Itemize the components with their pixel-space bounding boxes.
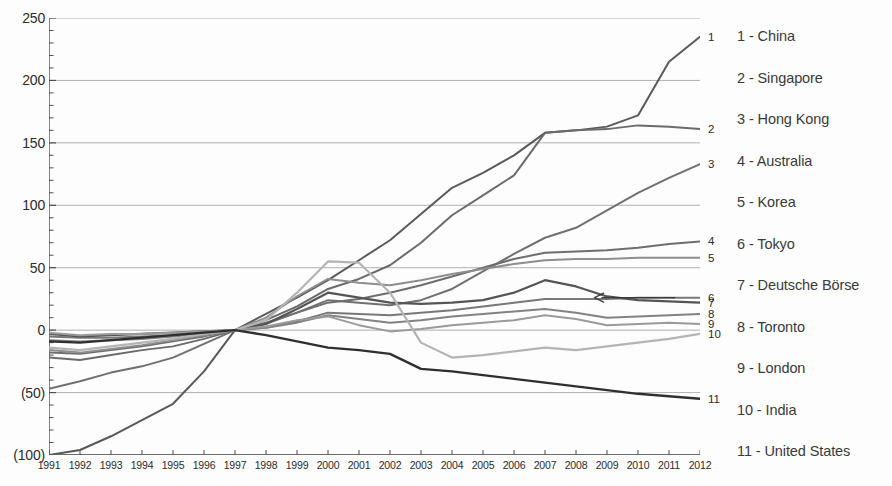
series-end-label-2: 2 <box>708 123 714 135</box>
x-tick-label: 1999 <box>286 459 309 471</box>
x-tick-label: 1991 <box>38 459 61 471</box>
legend-item-9: 9 - London <box>737 360 805 376</box>
x-tick-label: 2010 <box>627 459 650 471</box>
x-tick-label: 2004 <box>441 459 464 471</box>
y-tick-label: 0 <box>1 322 45 338</box>
series-end-label-1: 1 <box>708 31 714 43</box>
legend-item-10: 10 - India <box>737 402 796 418</box>
plot-area <box>49 18 700 455</box>
series-end-label-6: 6 <box>708 292 714 304</box>
legend-item-2: 2 - Singapore <box>737 70 823 86</box>
x-tick-label: 2007 <box>534 459 557 471</box>
legend-item-4: 4 - Australia <box>737 153 812 169</box>
x-tick-label: 2009 <box>596 459 619 471</box>
legend-item-5: 5 - Korea <box>737 194 796 210</box>
legend-item-11: 11 - United States <box>737 443 850 459</box>
x-tick-label: 1993 <box>100 459 123 471</box>
x-tick-label: 2002 <box>379 459 402 471</box>
x-tick-label: 1995 <box>162 459 185 471</box>
series-end-label-8: 8 <box>708 308 714 320</box>
legend-item-1: 1 - China <box>737 28 795 44</box>
x-axis: 1991199219931994199519961997199819992000… <box>49 459 700 479</box>
x-tick-label: 2011 <box>658 459 680 471</box>
x-tick-label: 2012 <box>689 459 712 471</box>
x-tick-label: 2001 <box>348 459 371 471</box>
series-line-india <box>49 261 700 357</box>
legend-item-8: 8 - Toronto <box>737 319 805 335</box>
legend-item-3: 3 - Hong Kong <box>737 111 829 127</box>
x-tick-label: 1996 <box>193 459 216 471</box>
series-end-label-4: 4 <box>708 235 714 247</box>
x-tick-label: 2003 <box>410 459 433 471</box>
series-line-london <box>49 315 700 335</box>
x-tick-label: 2000 <box>317 459 340 471</box>
series-end-label-5: 5 <box>708 252 714 264</box>
legend-item-6: 6 - Tokyo <box>737 236 795 252</box>
x-axis-ticks <box>49 450 700 455</box>
legend-item-7: 7 - Deutsche Börse <box>737 277 859 293</box>
y-tick-label: 150 <box>1 135 45 151</box>
x-tick-label: 1992 <box>69 459 92 471</box>
x-tick-label: 2005 <box>472 459 495 471</box>
y-tick-label: 200 <box>1 72 45 88</box>
x-tick-label: 2008 <box>565 459 588 471</box>
chart-figure: 250200150100500(50)(100) 199119921993199… <box>0 0 892 486</box>
legend: 1 - China2 - Singapore3 - Hong Kong4 - A… <box>737 0 892 486</box>
x-tick-label: 1998 <box>255 459 278 471</box>
y-tick-label: (50) <box>1 385 45 401</box>
series-end-label-11: 11 <box>708 393 720 405</box>
series-end-label-9: 9 <box>708 318 714 330</box>
y-tick-label: 250 <box>1 10 45 26</box>
y-axis: 250200150100500(50)(100) <box>0 0 45 486</box>
series-end-label-10: 10 <box>708 328 721 340</box>
y-tick-label: 100 <box>1 197 45 213</box>
series-end-label-7: 7 <box>708 297 714 309</box>
x-tick-label: 1994 <box>131 459 154 471</box>
y-tick-label: 50 <box>1 260 45 276</box>
series-end-label-3: 3 <box>708 158 714 170</box>
line-chart-svg <box>49 18 700 455</box>
x-tick-label: 2006 <box>503 459 526 471</box>
x-tick-label: 1997 <box>224 459 247 471</box>
